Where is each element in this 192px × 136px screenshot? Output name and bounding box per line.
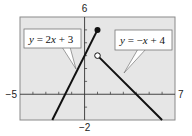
y-min-label: −2: [79, 122, 91, 133]
y-max-label: 6: [82, 3, 88, 14]
piecewise-function-graph: y = 2x + 3 y = −x + 4 6 −2 −5 7: [0, 0, 192, 136]
open-endpoint-circle: [95, 53, 101, 59]
closed-endpoint-dot: [95, 27, 101, 33]
equation-label-neg-x-plus-4: y = −x + 4: [119, 34, 165, 46]
x-min-label: −5: [6, 89, 18, 100]
equation-label-2x-plus-3: y = 2x + 3: [28, 33, 74, 45]
x-max-label: 7: [178, 89, 184, 100]
